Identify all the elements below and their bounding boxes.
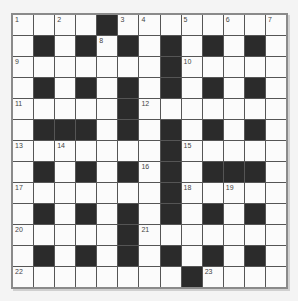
crossword-cell[interactable] [34, 57, 54, 77]
crossword-cell[interactable] [161, 15, 181, 35]
crossword-cell[interactable] [203, 183, 223, 203]
crossword-cell[interactable] [139, 183, 159, 203]
crossword-cell[interactable] [245, 57, 265, 77]
crossword-cell[interactable] [245, 183, 265, 203]
crossword-cell[interactable]: 21 [139, 225, 159, 245]
crossword-cell[interactable] [34, 267, 54, 287]
crossword-cell[interactable] [224, 36, 244, 56]
crossword-cell[interactable]: 13 [13, 141, 33, 161]
crossword-cell[interactable] [266, 246, 286, 266]
crossword-cell[interactable] [118, 267, 138, 287]
crossword-cell[interactable] [203, 225, 223, 245]
crossword-cell[interactable] [139, 267, 159, 287]
crossword-cell[interactable] [161, 225, 181, 245]
crossword-cell[interactable]: 9 [13, 57, 33, 77]
crossword-cell[interactable] [55, 78, 75, 98]
crossword-cell[interactable] [139, 36, 159, 56]
crossword-cell[interactable]: 18 [182, 183, 202, 203]
crossword-cell[interactable] [266, 162, 286, 182]
crossword-cell[interactable] [97, 99, 117, 119]
crossword-cell[interactable] [97, 183, 117, 203]
crossword-cell[interactable] [34, 99, 54, 119]
crossword-cell[interactable] [34, 183, 54, 203]
crossword-cell[interactable] [224, 78, 244, 98]
crossword-cell[interactable] [203, 57, 223, 77]
crossword-cell[interactable] [182, 99, 202, 119]
crossword-cell[interactable] [266, 57, 286, 77]
crossword-cell[interactable] [55, 36, 75, 56]
crossword-cell[interactable]: 14 [55, 141, 75, 161]
crossword-cell[interactable] [161, 99, 181, 119]
crossword-cell[interactable] [55, 99, 75, 119]
crossword-cell[interactable] [55, 162, 75, 182]
crossword-cell[interactable] [266, 204, 286, 224]
crossword-cell[interactable] [13, 78, 33, 98]
crossword-cell[interactable] [182, 162, 202, 182]
crossword-cell[interactable] [55, 225, 75, 245]
crossword-cell[interactable] [203, 15, 223, 35]
crossword-cell[interactable] [97, 267, 117, 287]
crossword-cell[interactable] [224, 204, 244, 224]
crossword-cell[interactable] [266, 99, 286, 119]
crossword-cell[interactable] [182, 225, 202, 245]
crossword-cell[interactable]: 1 [13, 15, 33, 35]
crossword-cell[interactable] [161, 267, 181, 287]
crossword-cell[interactable] [139, 78, 159, 98]
crossword-cell[interactable] [55, 246, 75, 266]
crossword-cell[interactable]: 12 [139, 99, 159, 119]
crossword-cell[interactable] [13, 162, 33, 182]
crossword-cell[interactable] [139, 120, 159, 140]
crossword-cell[interactable] [266, 183, 286, 203]
crossword-cell[interactable] [55, 204, 75, 224]
crossword-cell[interactable]: 17 [13, 183, 33, 203]
crossword-cell[interactable]: 6 [224, 15, 244, 35]
crossword-cell[interactable]: 22 [13, 267, 33, 287]
crossword-cell[interactable] [245, 99, 265, 119]
crossword-cell[interactable] [245, 15, 265, 35]
crossword-cell[interactable] [76, 15, 96, 35]
crossword-cell[interactable]: 8 [97, 36, 117, 56]
crossword-cell[interactable] [245, 141, 265, 161]
crossword-cell[interactable] [76, 99, 96, 119]
crossword-cell[interactable] [224, 57, 244, 77]
crossword-cell[interactable] [76, 225, 96, 245]
crossword-cell[interactable] [97, 246, 117, 266]
crossword-cell[interactable] [266, 36, 286, 56]
crossword-cell[interactable] [118, 183, 138, 203]
crossword-cell[interactable] [76, 57, 96, 77]
crossword-cell[interactable] [97, 57, 117, 77]
crossword-cell[interactable]: 20 [13, 225, 33, 245]
crossword-cell[interactable] [224, 246, 244, 266]
crossword-cell[interactable] [13, 120, 33, 140]
crossword-cell[interactable] [224, 267, 244, 287]
crossword-cell[interactable] [13, 204, 33, 224]
crossword-cell[interactable] [266, 120, 286, 140]
crossword-cell[interactable] [266, 141, 286, 161]
crossword-cell[interactable] [55, 57, 75, 77]
crossword-cell[interactable]: 10 [182, 57, 202, 77]
crossword-cell[interactable] [182, 120, 202, 140]
crossword-cell[interactable] [245, 225, 265, 245]
crossword-cell[interactable] [182, 36, 202, 56]
crossword-cell[interactable]: 2 [55, 15, 75, 35]
crossword-cell[interactable] [139, 204, 159, 224]
crossword-cell[interactable] [76, 183, 96, 203]
crossword-cell[interactable] [34, 225, 54, 245]
crossword-cell[interactable] [182, 204, 202, 224]
crossword-cell[interactable] [97, 225, 117, 245]
crossword-cell[interactable] [224, 99, 244, 119]
crossword-cell[interactable] [224, 120, 244, 140]
crossword-cell[interactable] [97, 78, 117, 98]
crossword-cell[interactable] [182, 246, 202, 266]
crossword-cell[interactable]: 16 [139, 162, 159, 182]
crossword-cell[interactable] [76, 267, 96, 287]
crossword-cell[interactable]: 7 [266, 15, 286, 35]
crossword-cell[interactable] [55, 183, 75, 203]
crossword-cell[interactable]: 15 [182, 141, 202, 161]
crossword-cell[interactable]: 19 [224, 183, 244, 203]
crossword-cell[interactable] [203, 141, 223, 161]
crossword-cell[interactable] [139, 57, 159, 77]
crossword-cell[interactable] [97, 204, 117, 224]
crossword-cell[interactable] [118, 141, 138, 161]
crossword-cell[interactable] [182, 78, 202, 98]
